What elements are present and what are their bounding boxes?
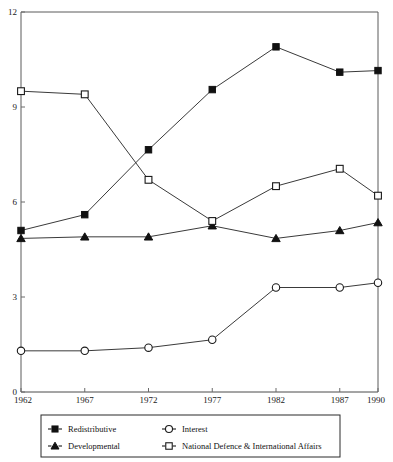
- line-chart: 036912 1962196719721977198219871990 Redi…: [0, 0, 393, 462]
- data-point: [82, 211, 88, 217]
- data-point: [18, 88, 25, 95]
- y-tick-label: 9: [13, 102, 18, 112]
- data-series-group: [17, 44, 382, 355]
- legend-marker-open-square-icon: [166, 443, 172, 449]
- data-point: [336, 165, 343, 172]
- y-tick-label: 6: [13, 197, 18, 207]
- data-point: [337, 69, 343, 75]
- x-axis-tick-labels: 1962196719721977198219871990: [14, 395, 386, 405]
- x-tick-label: 1977: [203, 395, 222, 405]
- data-point: [375, 67, 381, 73]
- series-national-defence-international-affairs: [18, 88, 382, 225]
- data-point: [209, 336, 216, 343]
- axis-ticks: [21, 12, 378, 392]
- legend-marker-filled-square-icon: [52, 426, 58, 432]
- legend-label: Developmental: [68, 441, 121, 451]
- x-tick-label: 1972: [140, 395, 158, 405]
- data-point: [209, 86, 215, 92]
- series-interest: [17, 279, 381, 354]
- data-point: [336, 284, 343, 291]
- x-tick-label: 1990: [367, 395, 386, 405]
- legend-item-redistributive[interactable]: Redistributive: [48, 424, 116, 434]
- y-tick-label: 3: [13, 292, 18, 302]
- legend-marker-open-circle-icon: [165, 425, 172, 432]
- data-point: [17, 347, 24, 354]
- data-point: [145, 147, 151, 153]
- x-tick-label: 1982: [267, 395, 285, 405]
- x-tick-label: 1962: [14, 395, 32, 405]
- data-point: [273, 44, 279, 50]
- series-polyline: [21, 91, 378, 221]
- legend-label: Redistributive: [68, 424, 116, 434]
- legend-item-national-defence-international-affairs[interactable]: National Defence & International Affairs: [162, 441, 322, 451]
- series-polyline: [21, 223, 378, 239]
- data-point: [209, 218, 216, 225]
- x-tick-label: 1987: [331, 395, 350, 405]
- legend-item-interest[interactable]: Interest: [162, 424, 208, 434]
- data-point: [375, 192, 382, 199]
- chart-container: 036912 1962196719721977198219871990 Redi…: [0, 0, 393, 462]
- series-polyline: [21, 47, 378, 231]
- data-point: [272, 284, 279, 291]
- legend-label: National Defence & International Affairs: [182, 441, 322, 451]
- data-point: [18, 227, 24, 233]
- series-polyline: [21, 283, 378, 351]
- y-tick-label: 12: [8, 7, 17, 17]
- data-point: [81, 91, 88, 98]
- x-tick-label: 1967: [76, 395, 95, 405]
- y-axis-tick-labels: 036912: [8, 7, 18, 397]
- data-point: [273, 183, 280, 190]
- data-point: [145, 176, 152, 183]
- legend-label: Interest: [182, 424, 208, 434]
- series-redistributive: [18, 44, 381, 234]
- data-point: [145, 344, 152, 351]
- data-point: [374, 279, 381, 286]
- plot-frame: [21, 12, 378, 392]
- data-point: [81, 347, 88, 354]
- series-developmental: [17, 219, 382, 242]
- chart-legend: RedistributiveDevelopmentalInterestNatio…: [41, 415, 340, 457]
- data-point: [374, 219, 382, 226]
